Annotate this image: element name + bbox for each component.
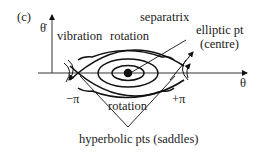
vibration-label: vibration [57, 30, 102, 43]
panel-label: (c) [17, 11, 31, 24]
y-axis-label: θ̇ [40, 22, 46, 35]
separatrix-label: separatrix [140, 11, 189, 24]
centre-point [125, 70, 132, 77]
elliptic-pointer [132, 40, 186, 72]
x-axis-label: θ [240, 77, 246, 90]
rotation-top-label: rotation [110, 30, 149, 43]
minus-pi-label: −π [66, 93, 79, 106]
hyperbolic-label: hyperbolic pts (saddles) [79, 133, 198, 146]
centre-label: (centre) [200, 38, 239, 51]
elliptic-pt-label: elliptic pt [196, 24, 244, 37]
phase-portrait-figure: (c) θ̇ θ vibration rotation separatrix e… [0, 0, 265, 154]
plus-pi-label: +π [172, 93, 185, 106]
rotation-bottom-label: rotation [108, 100, 147, 113]
